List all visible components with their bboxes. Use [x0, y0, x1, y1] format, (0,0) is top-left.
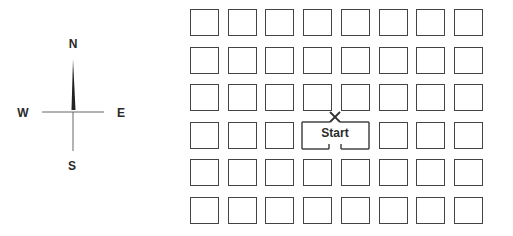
start-box-outline: [0, 0, 513, 236]
start-label: Start: [321, 127, 348, 139]
start-x-marker-icon: [330, 112, 340, 122]
